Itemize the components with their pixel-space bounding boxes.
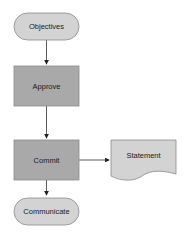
node-communicate-label: Communicate xyxy=(23,207,69,216)
node-commit[interactable]: Commit xyxy=(14,140,79,180)
node-communicate[interactable]: Communicate xyxy=(14,198,79,225)
node-objectives[interactable]: Objectives xyxy=(14,13,79,40)
node-statement-label: Statement xyxy=(126,151,161,160)
node-approve[interactable]: Approve xyxy=(14,66,79,106)
node-commit-label: Commit xyxy=(34,156,61,165)
node-approve-label: Approve xyxy=(33,82,61,91)
node-objectives-label: Objectives xyxy=(29,22,64,31)
node-statement[interactable]: Statement xyxy=(111,140,176,180)
flowchart-canvas: Objectives Approve Commit Statement Comm… xyxy=(0,0,188,238)
